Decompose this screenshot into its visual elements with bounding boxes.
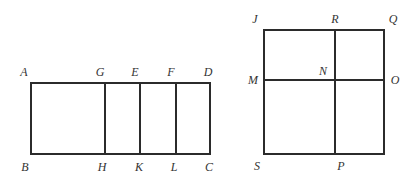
point-label-n: N <box>319 65 327 77</box>
point-label-r: R <box>331 13 338 25</box>
point-label-a: A <box>20 66 27 78</box>
square-jqps <box>264 30 384 154</box>
point-label-m: M <box>248 74 258 86</box>
outer-square <box>264 30 384 154</box>
point-label-g: G <box>96 66 105 78</box>
point-label-h: H <box>98 161 107 173</box>
point-label-q: Q <box>389 13 398 25</box>
point-label-l: L <box>171 161 178 173</box>
point-label-k: K <box>135 161 143 173</box>
point-label-e: E <box>131 66 138 78</box>
diagram-canvas <box>0 0 416 178</box>
outer-rectangle <box>31 83 210 154</box>
point-label-c: C <box>205 161 213 173</box>
point-label-j: J <box>252 13 257 25</box>
point-label-d: D <box>204 66 213 78</box>
point-label-p: P <box>337 160 344 172</box>
point-label-f: F <box>167 66 174 78</box>
rectangle-abcd <box>31 83 210 154</box>
point-label-b: B <box>21 161 28 173</box>
point-label-s: S <box>254 160 260 172</box>
point-label-o: O <box>391 74 400 86</box>
